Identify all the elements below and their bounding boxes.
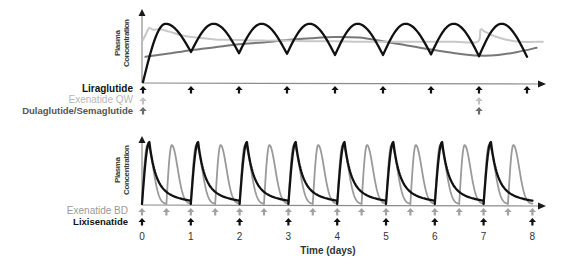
bottom-legend-labels: Exenatide BD Lixisenatide [67, 205, 128, 227]
bottom-y-axis-label: Plasma Concentration [113, 145, 131, 195]
top-panel-weekly-vs-daily: Plasma Concentration Liraglutide Exenati… [22, 9, 546, 116]
curve-liraglutide [143, 24, 527, 82]
dose-arrow-icon-exenatide-bd [480, 208, 487, 216]
bottom-x-axis-arrowhead-icon [538, 203, 546, 210]
dose-arrow-icon-lixisenatide [480, 218, 487, 226]
dose-arrow-icon-lixisenatide [285, 218, 292, 226]
top-curves [143, 24, 543, 82]
dose-arrow-icon-exenatide-bd [382, 208, 389, 216]
top-legend-labels: Liraglutide Exenatide QW Dulaglutide/Sem… [22, 83, 133, 116]
dose-arrow-icon-exenatide-bd [431, 208, 438, 216]
legend-label-exenatide-bd: Exenatide BD [67, 205, 128, 216]
pharmacokinetic-profile-figure: Plasma Concentration Liraglutide Exenati… [0, 0, 561, 273]
dose-arrow-icon-exenatide-bd [358, 208, 365, 216]
dose-arrow-icon-exenatide-bd [529, 208, 536, 216]
dose-arrow-icon-liraglutide [235, 86, 242, 94]
dose-arrow-icon-exenatide-bd [138, 208, 145, 216]
bottom-y-label-line1: Plasma [113, 156, 122, 183]
x-tick-label: 4 [334, 231, 340, 242]
x-tick-label: 5 [383, 231, 389, 242]
bottom-y-axis-arrowhead-icon [139, 136, 146, 143]
dose-arrow-icon-liraglutide [427, 86, 434, 94]
dose-arrow-icon-dulaglutide-semaglutide [475, 107, 482, 115]
legend-label-liraglutide: Liraglutide [82, 83, 134, 94]
dose-arrow-icon-exenatide-bd [504, 208, 511, 216]
dose-arrow-icon-exenatide-bd [309, 208, 316, 216]
top-x-axis-arrowhead-icon [538, 81, 546, 88]
legend-label-lixisenatide: Lixisenatide [73, 216, 128, 227]
bottom-curves [142, 142, 532, 204]
top-y-label-line1: Plasma [113, 29, 122, 56]
dose-arrow-icon-liraglutide [283, 86, 290, 94]
curve-lixisenatide [142, 142, 532, 204]
dose-arrow-icon-lixisenatide [529, 218, 536, 226]
dose-arrow-icon-exenatide-bd [236, 208, 243, 216]
x-tick-label: 8 [530, 231, 536, 242]
dose-arrow-icon-liraglutide [475, 86, 482, 94]
dose-arrow-icon-lixisenatide [334, 218, 341, 226]
x-tick-label: 7 [481, 231, 487, 242]
top-y-label-line2: Concentration [122, 19, 131, 67]
legend-label-exenatide-qw: Exenatide QW [69, 94, 134, 105]
dose-arrow-icon-exenatide-bd [456, 208, 463, 216]
top-x-axis [142, 83, 540, 84]
dose-arrow-icon-lixisenatide [187, 218, 194, 226]
x-tick-label: 1 [188, 231, 194, 242]
dose-arrow-icon-liraglutide [187, 86, 194, 94]
top-dose-arrows [139, 86, 530, 115]
bottom-x-axis [142, 205, 540, 206]
dose-arrow-icon-exenatide-bd [187, 208, 194, 216]
bottom-panel-short-acting: Plasma Concentration Exenatide BD Lixise… [67, 136, 546, 256]
dose-arrow-icon-lixisenatide [138, 218, 145, 226]
dose-arrow-icon-dulaglutide-semaglutide [139, 107, 146, 115]
dose-arrow-icon-exenatide-qw [139, 97, 146, 105]
dose-arrow-icon-exenatide-bd [407, 208, 414, 216]
top-y-axis-label: Plasma Concentration [113, 19, 131, 67]
bottom-y-label-line2: Concentration [122, 145, 131, 195]
dose-arrow-icon-exenatide-bd [285, 208, 292, 216]
legend-label-dulaglutide-semaglutide: Dulaglutide/Semaglutide [22, 105, 133, 116]
dose-arrow-icon-liraglutide [331, 86, 338, 94]
dose-arrow-icon-exenatide-bd [163, 208, 170, 216]
x-tick-label: 0 [139, 231, 145, 242]
dose-arrow-icon-exenatide-bd [334, 208, 341, 216]
dose-arrow-icon-exenatide-bd [260, 208, 267, 216]
dose-arrow-icon-lixisenatide [236, 218, 243, 226]
x-tick-label: 6 [432, 231, 438, 242]
top-y-axis-arrowhead-icon [139, 9, 146, 16]
dose-arrow-icon-lixisenatide [431, 218, 438, 226]
x-tick-label: 2 [237, 231, 243, 242]
dose-arrow-icon-liraglutide [523, 86, 530, 94]
dose-arrow-icon-liraglutide [379, 86, 386, 94]
bottom-dose-arrows [138, 208, 536, 226]
dose-arrow-icon-lixisenatide [382, 218, 389, 226]
dose-arrow-icon-exenatide-bd [212, 208, 219, 216]
x-tick-label: 3 [286, 231, 292, 242]
dose-arrow-icon-exenatide-qw [475, 97, 482, 105]
dose-arrow-icon-liraglutide [139, 86, 146, 94]
x-tick-labels: 012345678 [139, 231, 535, 242]
x-axis-title: Time (days) [300, 245, 355, 256]
